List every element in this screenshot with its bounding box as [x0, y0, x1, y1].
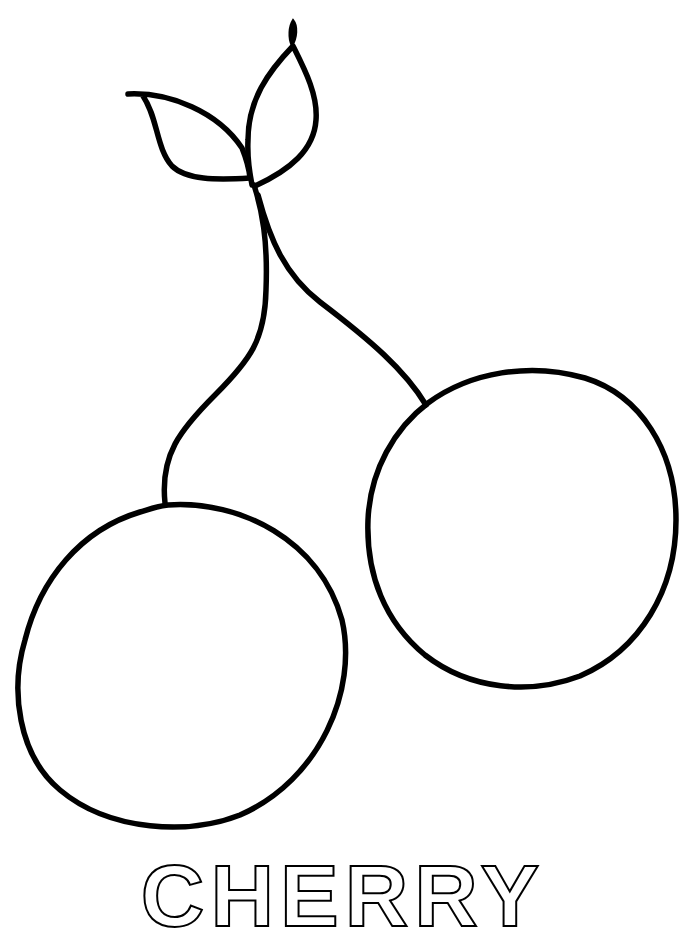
stem-left	[164, 185, 266, 503]
page-title: CHERRY	[0, 852, 686, 932]
stem-tip	[289, 20, 296, 46]
cherry-right	[368, 370, 676, 686]
stem-right	[258, 195, 426, 405]
leaf-right	[248, 46, 316, 186]
leaf-left	[128, 94, 250, 179]
cherry-left	[18, 505, 346, 827]
